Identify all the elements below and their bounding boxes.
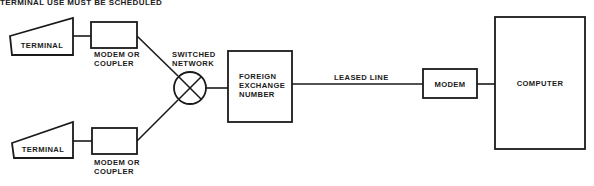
modem-label: MODEM [434, 80, 465, 89]
foreign-exchange-label-line3: NUMBER [239, 90, 275, 99]
terminal-top-label: TERMINAL [21, 41, 63, 50]
switched-network-label-line2: NETWORK [172, 59, 214, 68]
network-diagram: TERMINAL USE MUST BE SCHEDULED TERMINAL … [0, 0, 594, 186]
switched-network: SWITCHED NETWORK [172, 50, 216, 104]
modem-top: MODEM OR COUPLER [91, 22, 140, 68]
terminal-bottom: TERMINAL [12, 122, 73, 158]
modem-bottom-label-line2: COUPLER [94, 167, 134, 176]
modem-top-label-line2: COUPLER [94, 59, 134, 68]
diagram-title: TERMINAL USE MUST BE SCHEDULED [0, 0, 162, 7]
modem-bottom-box [92, 128, 137, 154]
computer: COMPUTER [495, 17, 585, 149]
wire-modem-bottom-to-network [137, 100, 178, 141]
terminal-top: TERMINAL [10, 18, 73, 55]
leased-line-label: LEASED LINE [334, 73, 389, 82]
terminal-bottom-label: TERMINAL [22, 145, 64, 154]
modem-bottom: MODEM OR COUPLER [92, 128, 140, 176]
modem: MODEM [423, 69, 477, 98]
modem-bottom-label-line1: MODEM OR [94, 158, 140, 167]
modem-top-box [91, 22, 137, 48]
computer-label: COMPUTER [517, 79, 564, 88]
modem-top-label-line1: MODEM OR [94, 50, 140, 59]
foreign-exchange-label-line1: FOREIGN [239, 72, 276, 81]
foreign-exchange-number: FOREIGN EXCHANGE NUMBER [228, 51, 292, 122]
switched-network-label-line1: SWITCHED [172, 50, 216, 59]
foreign-exchange-label-line2: EXCHANGE [239, 81, 285, 90]
